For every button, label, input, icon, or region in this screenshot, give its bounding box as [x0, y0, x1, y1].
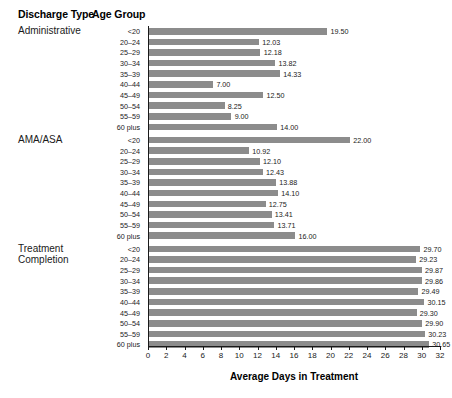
age-group-label: <20	[92, 137, 140, 144]
bar	[149, 320, 422, 327]
bar-value-label: 16.00	[299, 233, 317, 240]
age-group-label: 20–24	[92, 39, 140, 46]
bar-value-label: 12.18	[264, 49, 282, 56]
bar-value-label: 22.00	[353, 137, 371, 144]
column-headers: Discharge Type Age Group	[0, 8, 452, 24]
bar	[149, 49, 260, 56]
bar	[149, 147, 249, 154]
x-axis-tick	[221, 346, 222, 350]
age-group-label: 50–54	[92, 211, 140, 218]
bar-value-label: 14.00	[280, 124, 298, 131]
x-axis-tick	[276, 346, 277, 350]
bar-value-label: 12.50	[267, 92, 285, 99]
bar-value-label: 13.71	[278, 222, 296, 229]
bar	[149, 232, 295, 239]
bar	[149, 190, 278, 197]
bar-value-label: 12.10	[263, 158, 281, 165]
bar	[149, 179, 276, 186]
bar-value-label: 12.75	[269, 201, 287, 208]
bar	[149, 169, 262, 176]
age-group-label: 50–54	[92, 320, 140, 327]
age-group-label: 30–34	[92, 60, 140, 67]
age-group-label: <20	[92, 246, 140, 253]
age-group-label: 35–39	[92, 288, 140, 295]
x-axis-tick	[148, 346, 149, 350]
x-axis-tick-label: 8	[219, 352, 223, 360]
age-group-label: 30–34	[92, 169, 140, 176]
x-axis-tick-label: 28	[399, 352, 408, 360]
x-axis-tick	[404, 346, 405, 350]
bar-value-label: 19.50	[330, 28, 348, 35]
x-axis-tick	[312, 346, 313, 350]
bar	[149, 124, 277, 131]
x-axis-tick	[203, 346, 204, 350]
bar-value-label: 14.10	[281, 190, 299, 197]
x-axis-tick-label: 24	[363, 352, 372, 360]
bar	[149, 102, 224, 109]
bar-value-label: 29.86	[425, 278, 443, 285]
bar	[149, 309, 416, 316]
bar	[149, 331, 425, 338]
bar-value-label: 13.41	[275, 211, 293, 218]
x-axis-tick-label: 2	[164, 352, 168, 360]
x-axis-tick	[385, 346, 386, 350]
bar	[149, 299, 424, 306]
bar-value-label: 13.82	[279, 60, 297, 67]
x-axis-tick-label: 10	[235, 352, 244, 360]
bar	[149, 137, 350, 144]
bar	[149, 113, 231, 120]
age-group-label: <20	[92, 28, 140, 35]
bar-value-label: 14.33	[283, 71, 301, 78]
age-group-label: 30–34	[92, 278, 140, 285]
bar	[149, 277, 421, 284]
x-axis-tick-label: 30	[417, 352, 426, 360]
age-group-label: 45–49	[92, 92, 140, 99]
bar	[149, 70, 280, 77]
bar-value-label: 10.92	[252, 148, 270, 155]
x-axis-tick-label: 26	[381, 352, 390, 360]
age-group-label: 55–59	[92, 222, 140, 229]
bar-value-label: 12.03	[262, 39, 280, 46]
x-axis-tick-label: 4	[182, 352, 186, 360]
bar-value-label: 29.90	[425, 320, 443, 327]
age-group-label: 35–39	[92, 71, 140, 78]
x-axis-title: Average Days in Treatment	[148, 371, 440, 382]
bar-value-label: 29.49	[422, 288, 440, 295]
bar-value-label: 8.25	[228, 103, 242, 110]
x-axis-tick-label: 14	[271, 352, 280, 360]
x-axis-tick	[294, 346, 295, 350]
x-axis-tick-label: 6	[201, 352, 205, 360]
age-group-label: 60 plus	[92, 341, 140, 348]
bar	[149, 211, 271, 218]
bar-value-label: 7.00	[216, 81, 230, 88]
age-group-label: 40–44	[92, 190, 140, 197]
bar-value-label: 29.30	[420, 310, 438, 317]
bar-value-label: 29.70	[424, 246, 442, 253]
age-group-label: 25–29	[92, 158, 140, 165]
header-age-group: Age Group	[92, 8, 145, 20]
x-axis-tick-label: 12	[253, 352, 262, 360]
x-axis-tick	[349, 346, 350, 350]
x-axis-tick-label: 32	[436, 352, 445, 360]
age-group-label: 45–49	[92, 310, 140, 317]
x-axis-tick	[185, 346, 186, 350]
bar-value-label: 30.23	[428, 331, 446, 338]
discharge-type-label: AMA/ASA	[18, 134, 90, 146]
bar	[149, 60, 275, 67]
bar	[149, 92, 263, 99]
plot-area: 19.5012.0312.1813.8214.337.0012.508.259.…	[148, 26, 440, 346]
age-group-label: 55–59	[92, 113, 140, 120]
x-axis-tick-label: 22	[344, 352, 353, 360]
age-group-label: 25–29	[92, 49, 140, 56]
age-group-label: 35–39	[92, 179, 140, 186]
bar-value-label: 13.88	[279, 179, 297, 186]
chart-container: Discharge Type Age Group AdministrativeA…	[0, 0, 452, 398]
bar	[149, 39, 259, 46]
bar	[149, 246, 420, 253]
x-axis-tick-label: 18	[308, 352, 317, 360]
bar-value-label: 9.00	[235, 113, 249, 120]
age-group-label: 40–44	[92, 299, 140, 306]
bar	[149, 222, 274, 229]
age-group-label: 60 plus	[92, 233, 140, 240]
x-axis-tick	[331, 346, 332, 350]
